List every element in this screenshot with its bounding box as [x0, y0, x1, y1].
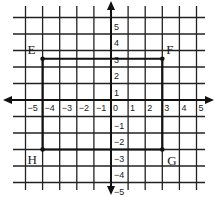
y-tick-label: 5 — [114, 22, 119, 32]
x-tick-label: 5 — [199, 103, 204, 113]
point-E-text: E — [28, 42, 36, 57]
y-tick-label: 1 — [114, 88, 119, 98]
point-F-text: F — [166, 42, 173, 57]
x-tick-label: 2 — [147, 103, 152, 113]
x-tick-label: −4 — [45, 103, 55, 113]
y-tick-label: −2 — [114, 137, 124, 147]
x-tick-label: 0 — [113, 103, 118, 113]
point-H-marker — [40, 147, 45, 152]
x-axis-left-arrow-icon — [3, 96, 12, 104]
x-tick-label: 3 — [164, 103, 169, 113]
y-tick-label: −3 — [114, 154, 124, 164]
y-tick-label: −1 — [114, 121, 124, 131]
x-tick-label: −2 — [79, 103, 89, 113]
point-F-marker — [160, 56, 165, 61]
point-G-text: G — [167, 153, 176, 168]
x-tick-label: 4 — [181, 103, 186, 113]
x-axis-right-arrow-icon — [205, 96, 214, 104]
point-E-marker — [40, 56, 45, 61]
point-H-text: H — [28, 152, 37, 167]
x-tick-label: −3 — [62, 103, 72, 113]
y-tick-label: 2 — [114, 71, 119, 81]
x-tick-label: 1 — [130, 103, 135, 113]
y-tick-label: −5 — [114, 187, 124, 197]
x-tick-label: −5 — [28, 103, 38, 113]
x-tick-label: −1 — [96, 103, 106, 113]
y-axis-up-arrow-icon — [107, 1, 115, 10]
coordinate-grid: −5−4−3−2−101234554321−1−2−3−4−5EFGH — [0, 0, 217, 196]
y-tick-label: −4 — [114, 170, 124, 180]
point-G-marker — [160, 147, 165, 152]
coordinate-plane-diagram: −5−4−3−2−101234554321−1−2−3−4−5EFGH E F … — [0, 0, 217, 196]
y-tick-label: 4 — [114, 38, 119, 48]
